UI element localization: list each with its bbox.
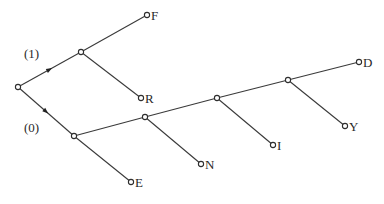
tree-diagram-svg: FRENIYD(1)(0) [0,0,384,204]
edges-group [18,15,359,182]
edge-b-I [217,98,273,145]
edge-b-c [217,80,288,98]
leaf-label-N: N [205,157,215,172]
leaf-label-I: I [277,138,281,153]
node-n0 [71,133,76,138]
branch-label-0: (0) [24,120,39,135]
edge-a-N [145,117,201,164]
branch-label-1: (1) [24,46,39,61]
node-I [270,142,275,147]
node-a [142,114,147,119]
edge-n1-R [81,52,141,98]
node-b [214,95,219,100]
arrowhead-icon [46,66,53,73]
leaf-label-E: E [135,175,143,190]
node-root [15,84,20,89]
edge-a-b [145,98,217,117]
node-n1 [78,49,83,54]
leaf-label-Y: Y [349,119,359,134]
arrows-group [42,66,53,115]
leaf-label-R: R [145,91,154,106]
node-c [285,77,290,82]
leaf-label-D: D [363,55,372,70]
node-R [138,95,143,100]
node-F [144,12,149,17]
node-E [128,179,133,184]
edge-n0-E [74,136,131,182]
nodes-group [15,12,361,184]
node-Y [342,123,347,128]
edge-n0-a [74,117,145,136]
tree-diagram: FRENIYD(1)(0) [0,0,384,204]
leaf-label-F: F [151,8,158,23]
edge-c-D [288,62,359,80]
edge-n1-F [81,15,147,52]
node-D [356,59,361,64]
node-N [198,161,203,166]
edge-c-Y [288,80,345,126]
